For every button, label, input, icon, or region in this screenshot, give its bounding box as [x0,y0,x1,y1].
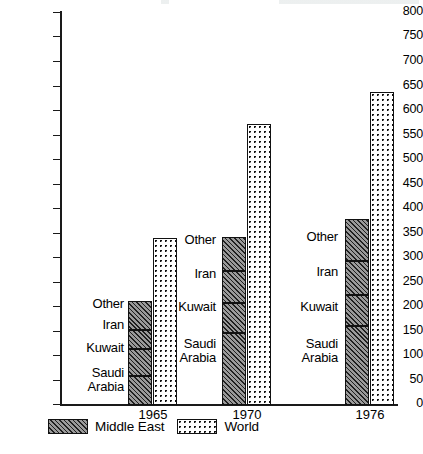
y-tick-label: 650 [375,79,423,92]
y-tick-label: 750 [375,29,423,42]
y-tick [53,86,60,87]
bar-middle-east-1970 [222,237,246,405]
y-tick [53,135,60,136]
legend-swatch-world-icon [177,419,217,434]
bar-world-1976 [370,92,394,405]
y-tick [53,184,60,185]
segment-divider [223,302,245,304]
legend-item-middle-east: Middle East [48,419,164,434]
y-tick [53,159,60,160]
y-tick [53,208,60,209]
legend-swatch-middle-east-icon [48,419,88,434]
segment-divider [346,325,368,327]
segment-label-iran-1976: Iran [268,265,338,279]
bar-world-1965 [153,238,177,405]
plot-area: 800 750 700 650 600 550 500 450 400 350 … [0,0,423,415]
y-tick [53,355,60,356]
y-tick-label: 700 [375,54,423,67]
bar-chart: 800 750 700 650 600 550 500 450 400 350 … [0,0,423,454]
segment-label-kuwait-1970: Kuwait [148,300,216,314]
x-tick-label-1976: 1976 [335,408,405,422]
segment-divider [346,294,368,296]
segment-label-saudi-arabia-1976: Saudi Arabia [260,337,338,365]
segment-divider [223,332,245,334]
y-tick [53,61,60,62]
y-tick [53,282,60,283]
legend-label-middle-east: Middle East [95,420,164,434]
segment-label-kuwait-1976: Kuwait [268,300,338,314]
legend-item-world: World [177,419,259,434]
segment-label-other-1976: Other [268,230,338,244]
segment-label-saudi-arabia-1965: Saudi Arabia [50,366,124,394]
segment-label-other-1970: Other [148,233,216,247]
segment-label-saudi-arabia-1970: Saudi Arabia [140,337,216,365]
segment-divider [129,329,151,331]
y-tick [53,36,60,37]
segment-label-iran-1970: Iran [148,267,216,281]
y-tick [53,110,60,111]
y-tick [53,404,60,405]
y-tick [53,257,60,258]
segment-label-other-1965: Other [58,297,124,311]
bar-middle-east-1976 [345,219,369,405]
y-tick [53,12,60,13]
legend-label-world: World [224,420,259,434]
y-tick [53,233,60,234]
chart-legend: Middle East World [48,419,259,434]
segment-label-kuwait-1965: Kuwait [58,341,124,355]
segment-divider [129,375,151,377]
y-tick-label: 800 [375,5,423,18]
segment-divider [223,270,245,272]
segment-label-iran-1965: Iran [58,318,124,332]
segment-divider [346,260,368,262]
